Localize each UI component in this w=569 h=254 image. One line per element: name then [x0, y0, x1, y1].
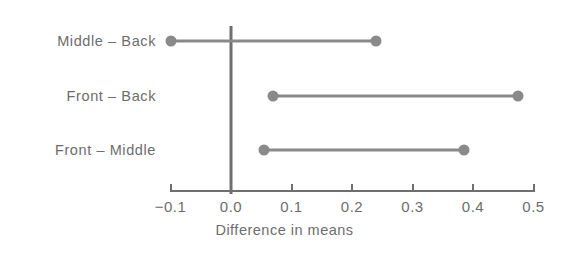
x-axis-title: Difference in means	[0, 222, 569, 238]
x-tick-6	[533, 184, 535, 192]
x-tick-0	[170, 184, 172, 192]
x-tick-5	[472, 184, 474, 192]
x-tick-2	[291, 184, 293, 192]
interval-plot: Middle – Back Front – Back Front – Middl…	[0, 0, 569, 254]
interval-bar-1	[273, 95, 518, 98]
x-tick-label-1: 0.0	[220, 198, 242, 215]
x-tick-label-6: 0.5	[522, 198, 544, 215]
interval-endpoint-1-upper	[513, 91, 524, 102]
interval-endpoint-0-upper	[371, 36, 382, 47]
x-tick-label-4: 0.3	[401, 198, 423, 215]
interval-endpoint-2-upper	[458, 145, 469, 156]
x-tick-3	[351, 184, 353, 192]
interval-bar-2	[264, 149, 464, 152]
interval-endpoint-0-lower	[165, 36, 176, 47]
interval-bar-0	[171, 40, 377, 43]
interval-endpoint-1-lower	[268, 91, 279, 102]
x-tick-label-0: −0.1	[155, 198, 187, 215]
x-tick-1	[230, 184, 232, 192]
interval-endpoint-2-lower	[259, 145, 270, 156]
x-tick-label-5: 0.4	[462, 198, 484, 215]
plot-area	[0, 0, 569, 254]
x-tick-label-3: 0.2	[341, 198, 363, 215]
x-tick-4	[412, 184, 414, 192]
zero-reference-line	[230, 26, 233, 194]
x-tick-label-2: 0.1	[280, 198, 302, 215]
